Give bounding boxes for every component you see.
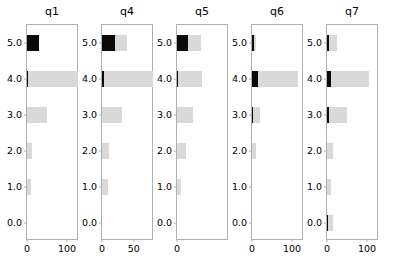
- bar-highlight-0.0: [327, 215, 328, 230]
- x-tick-mark: [133, 239, 134, 242]
- bar-total-2.0: [177, 143, 186, 158]
- x-tick-mark: [177, 239, 178, 242]
- plot-axes: 5.04.03.02.01.00.00100: [26, 24, 78, 240]
- y-tick-mark: [249, 223, 252, 224]
- y-tick-mark: [99, 223, 102, 224]
- bar-total-1.0: [27, 179, 31, 194]
- bar-highlight-4.0: [177, 71, 178, 86]
- bar-total-2.0: [102, 143, 109, 158]
- bar-total-4.0: [27, 71, 78, 86]
- panel-q5: q55.04.03.02.01.00.00: [150, 0, 228, 277]
- bar-total-4.0: [327, 71, 369, 86]
- bar-highlight-5.0: [27, 35, 39, 50]
- plot-axes: 5.04.03.02.01.00.0050: [101, 24, 153, 240]
- plot-axes: 5.04.03.02.01.00.00: [176, 24, 228, 240]
- plot-axes: 5.04.03.02.01.00.00100: [251, 24, 303, 240]
- x-tick-mark: [327, 239, 328, 242]
- y-tick-mark: [249, 187, 252, 188]
- bar-highlight-4.0: [252, 71, 258, 86]
- bar-total-4.0: [252, 71, 298, 86]
- bar-total-3.0: [177, 107, 193, 122]
- x-tick-mark: [367, 239, 368, 242]
- y-tick-mark: [174, 223, 177, 224]
- bar-total-3.0: [327, 107, 347, 122]
- bar-highlight-5.0: [252, 35, 254, 50]
- bar-total-2.0: [252, 143, 256, 158]
- panel-title: q1: [26, 5, 78, 19]
- bar-highlight-3.0: [327, 107, 329, 122]
- bar-total-1.0: [102, 179, 108, 194]
- bar-total-3.0: [27, 107, 47, 122]
- x-tick-mark: [67, 239, 68, 242]
- x-tick-mark: [102, 239, 103, 242]
- bar-total-1.0: [177, 179, 181, 194]
- panel-q7: q75.04.03.02.01.00.00100: [300, 0, 378, 277]
- y-tick-mark: [24, 223, 27, 224]
- bar-total-4.0: [102, 71, 153, 86]
- panel-q4: q45.04.03.02.01.00.0050: [75, 0, 153, 277]
- x-tick-mark: [292, 239, 293, 242]
- panel-q1: q15.04.03.02.01.00.00100: [0, 0, 78, 277]
- plot-area: [252, 25, 302, 239]
- plot-area: [102, 25, 152, 239]
- panel-title: q4: [101, 5, 153, 19]
- bar-total-1.0: [327, 179, 331, 194]
- figure-canvas: q15.04.03.02.01.00.00100q45.04.03.02.01.…: [0, 0, 404, 277]
- x-tick-mark: [27, 239, 28, 242]
- plot-area: [27, 25, 77, 239]
- bar-highlight-4.0: [327, 71, 331, 86]
- plot-axes: 5.04.03.02.01.00.00100: [326, 24, 378, 240]
- panel-title: q5: [176, 5, 228, 19]
- bar-total-2.0: [27, 143, 32, 158]
- panel-title: q6: [251, 5, 303, 19]
- bar-highlight-3.0: [252, 107, 253, 122]
- bar-highlight-4.0: [27, 71, 28, 86]
- plot-area: [177, 25, 227, 239]
- bar-total-2.0: [327, 143, 333, 158]
- bar-total-3.0: [102, 107, 122, 122]
- plot-area: [327, 25, 377, 239]
- panel-q6: q65.04.03.02.01.00.00100: [225, 0, 303, 277]
- bar-highlight-5.0: [327, 35, 329, 50]
- x-tick-mark: [252, 239, 253, 242]
- panel-title: q7: [326, 5, 378, 19]
- bar-total-3.0: [252, 107, 260, 122]
- bar-highlight-5.0: [102, 35, 115, 50]
- bar-highlight-5.0: [177, 35, 188, 50]
- bar-total-4.0: [177, 71, 202, 86]
- bar-highlight-4.0: [102, 71, 104, 86]
